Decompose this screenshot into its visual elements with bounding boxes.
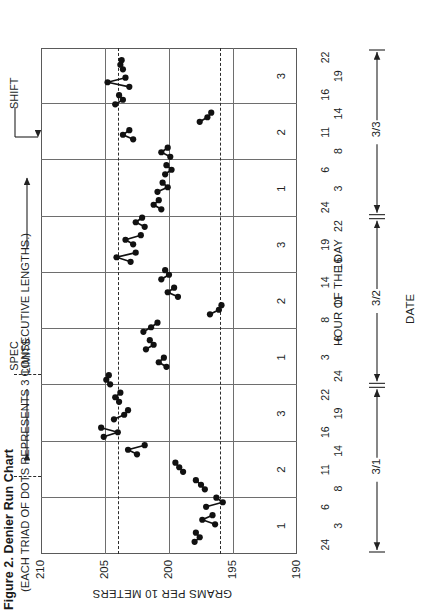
data-point (156, 359, 162, 365)
data-point (154, 320, 160, 326)
data-point (193, 530, 199, 536)
spec-limit-lower-extension (14, 374, 41, 375)
hour-tick-label: 11 (319, 121, 331, 143)
data-point (147, 337, 153, 343)
data-point (209, 512, 215, 518)
hour-tick-label: 3 (319, 346, 331, 368)
data-point (158, 206, 164, 212)
data-point (119, 57, 125, 63)
data-point (139, 215, 145, 221)
hour-tick-label: 8 (332, 477, 344, 499)
data-point (165, 289, 171, 295)
data-point (151, 202, 157, 208)
y-tick-label: 210 (34, 560, 46, 594)
figure-canvas: Figure 2. Denier Run Chart (EACH TRIAD O… (0, 0, 442, 614)
hour-tick-label: 24 (319, 196, 331, 218)
data-point (158, 276, 164, 282)
shift-number-label: 2 (275, 120, 287, 144)
data-point (112, 394, 118, 400)
data-point (161, 355, 167, 361)
data-point (193, 477, 199, 483)
shift-number-label: 2 (275, 289, 287, 313)
data-point (142, 442, 148, 448)
data-point (203, 504, 209, 510)
data-point (163, 364, 169, 370)
hour-tick-label: 14 (332, 440, 344, 462)
data-point (213, 495, 219, 501)
data-point (207, 311, 213, 317)
data-point (172, 460, 178, 466)
data-point (142, 224, 148, 230)
x-axis-title: HOUR OF THE DAY (332, 239, 344, 346)
data-point (126, 84, 132, 90)
data-point (175, 294, 181, 300)
data-point (167, 154, 173, 160)
data-point (212, 521, 218, 527)
data-point (218, 302, 224, 308)
hour-tick-label: 19 (319, 234, 331, 256)
hour-tick-label: 16 (319, 84, 331, 106)
data-point (198, 482, 204, 488)
data-point (168, 167, 174, 173)
data-point (130, 241, 136, 247)
data-point (104, 79, 110, 85)
hour-tick-label: 6 (319, 159, 331, 181)
hour-tick-label: 22 (319, 46, 331, 68)
data-point (98, 425, 104, 431)
shift-number-label: 3 (275, 401, 287, 425)
data-point (106, 372, 112, 378)
data-point (192, 539, 198, 545)
hour-tick-label: 3 (332, 515, 344, 537)
data-point (120, 132, 126, 138)
hour-tick-label: 22 (319, 384, 331, 406)
data-point (126, 127, 132, 133)
data-point (134, 451, 140, 457)
data-point (115, 429, 121, 435)
hour-tick-label: 8 (332, 140, 344, 162)
data-point (199, 517, 205, 523)
data-point (197, 119, 203, 125)
data-point (113, 254, 119, 260)
hour-tick-label: 24 (332, 365, 344, 387)
data-point (140, 329, 146, 335)
data-point (116, 92, 122, 98)
date-span-axis (363, 28, 397, 614)
y-axis-title: GRAMS PER 10 METERS (92, 588, 232, 600)
data-point (130, 136, 136, 142)
hour-tick-label: 11 (319, 459, 331, 481)
shift-number-label: 1 (275, 177, 287, 201)
data-point (158, 149, 164, 155)
data-point (171, 285, 177, 291)
data-series (41, 48, 297, 554)
data-point (122, 75, 128, 81)
data-point (148, 324, 154, 330)
hour-tick-label: 6 (319, 496, 331, 518)
shift-number-label: 1 (275, 345, 287, 369)
hour-tick-label: 19 (332, 402, 344, 424)
spec-limit-upper-extension (14, 476, 41, 477)
hour-tick-label: 14 (332, 103, 344, 125)
data-point (163, 162, 169, 168)
hour-tick-label: 3 (332, 178, 344, 200)
data-point (165, 184, 171, 190)
shift-number-label: 3 (275, 64, 287, 88)
data-point (160, 180, 166, 186)
data-point (154, 189, 160, 195)
hour-tick-label: 14 (319, 271, 331, 293)
data-point (133, 219, 139, 225)
data-point (165, 145, 171, 151)
data-point (112, 101, 118, 107)
hour-tick-label: 8 (319, 309, 331, 331)
data-point (128, 259, 134, 265)
data-point (220, 499, 226, 505)
figure-title: Figure 2. Denier Run Chart (2, 449, 16, 610)
shift-number-label: 3 (275, 233, 287, 257)
data-point (125, 447, 131, 453)
shift-annotation-arrow (10, 105, 44, 159)
denier-run-chart-figure: Figure 2. Denier Run Chart (EACH TRIAD O… (0, 0, 442, 614)
data-point (143, 346, 149, 352)
data-point (156, 197, 162, 203)
data-point (111, 416, 117, 422)
date-axis-title: DATE (404, 294, 416, 324)
hour-tick-label: 16 (319, 421, 331, 443)
